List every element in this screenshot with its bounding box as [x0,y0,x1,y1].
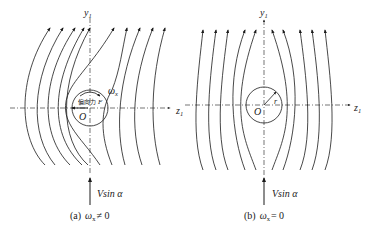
force-label-cn: 偏向力 [78,98,96,106]
panel-b [185,20,350,205]
radius-label: r [274,97,278,106]
y1-label-a: y1 [83,7,92,19]
flow-label-b: Vsin α [272,188,298,199]
force-symbol: F [97,98,103,106]
cylinder-flow-diagram: y1 z1 O ωx 偏向力 F Vsin α (a)ωx≠ 0 y1 z1 O… [0,0,368,233]
origin-label-b: O [254,106,261,117]
caption-a: (a)ωx≠ 0 [70,210,109,222]
flow-label-a: Vsin α [97,188,123,199]
z1-label-a: z1 [175,105,183,117]
origin-label-a: O [79,111,86,122]
z1-label-b: z1 [353,102,361,114]
omega-label-a: ωx [108,85,118,97]
panel-a [10,18,170,205]
caption-b: (b)ωx= 0 [244,210,284,222]
y1-label-b: y1 [259,7,268,19]
